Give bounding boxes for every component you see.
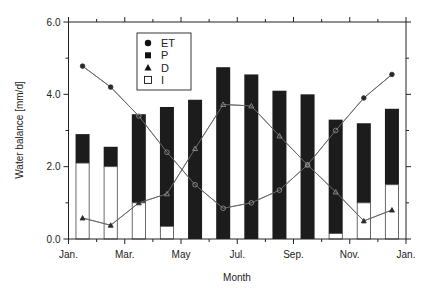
- legend-open-square-icon: [145, 76, 152, 83]
- et-line: [83, 66, 392, 208]
- bar-p: [272, 91, 286, 239]
- y-tick-label: 2.0: [47, 161, 61, 172]
- et-line-overlay: [83, 66, 392, 208]
- bars-layer: [76, 67, 399, 239]
- legend: ETPDI: [137, 33, 191, 90]
- bar-p: [132, 114, 146, 203]
- bar-p: [216, 67, 230, 239]
- x-tick-label: Jul.: [229, 249, 245, 260]
- et-marker: [362, 96, 367, 101]
- bar-p: [76, 134, 90, 163]
- y-tick-label: 0.0: [47, 234, 61, 245]
- x-tick-label: Nov.: [340, 249, 360, 260]
- x-axis-title: Month: [223, 272, 251, 283]
- et-marker: [80, 64, 85, 69]
- plot-frame: [69, 22, 407, 239]
- d-line: [83, 104, 392, 225]
- y-tick-label: 4.0: [47, 89, 61, 100]
- legend-label: I: [161, 74, 164, 86]
- legend-label: P: [161, 49, 168, 61]
- bar-i: [132, 203, 145, 239]
- x-tick-label: Mar.: [115, 249, 134, 260]
- bar-i: [76, 163, 89, 239]
- water-balance-chart: 0.02.04.06.0Jan.Mar.MayJul.Sep.Nov.Jan. …: [0, 0, 428, 294]
- legend-label: D: [161, 62, 169, 74]
- bar-p: [244, 74, 258, 239]
- bar-p: [160, 107, 174, 226]
- lines-layer: [80, 64, 394, 227]
- x-tick-label: Jan.: [59, 249, 78, 260]
- et-marker: [390, 72, 395, 77]
- bar-p: [385, 109, 399, 185]
- bar-p: [104, 147, 118, 167]
- d-line-overlay: [83, 104, 392, 225]
- bar-i: [104, 167, 117, 239]
- bar-p: [357, 123, 371, 203]
- x-tick-label: Sep.: [283, 249, 304, 260]
- y-tick-label: 6.0: [47, 17, 61, 28]
- legend-label: ET: [161, 37, 175, 49]
- legend-circle-icon: [145, 40, 151, 46]
- x-tick-label: Jan.: [397, 249, 416, 260]
- bar-p: [188, 100, 202, 239]
- legend-filled-square-icon: [145, 52, 151, 58]
- y-axis-title: Water balance [mm/d]: [14, 81, 25, 179]
- bar-i: [329, 234, 342, 239]
- bar-i: [160, 226, 173, 239]
- x-tick-label: May: [172, 249, 191, 260]
- et-marker: [108, 85, 113, 90]
